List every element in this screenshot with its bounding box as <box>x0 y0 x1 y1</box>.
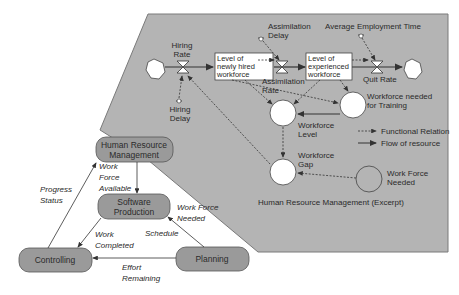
svg-text:Average Employment Time: Average Employment Time <box>325 22 421 31</box>
svg-text:Management: Management <box>109 150 159 160</box>
svg-text:Schedule: Schedule <box>145 229 179 238</box>
svg-text:Workforce needed: Workforce needed <box>367 92 432 101</box>
svg-text:Needed: Needed <box>387 178 415 187</box>
svg-text:workforce: workforce <box>216 70 250 79</box>
svg-text:Quit Rate: Quit Rate <box>363 75 397 84</box>
svg-text:Needed: Needed <box>177 214 206 223</box>
svg-text:Gap: Gap <box>298 160 314 169</box>
svg-text:Work Force: Work Force <box>387 169 429 178</box>
svg-text:Production: Production <box>114 207 155 217</box>
svg-text:Rate: Rate <box>174 50 191 59</box>
svg-text:Planning: Planning <box>195 254 228 264</box>
svg-text:Functional Relation: Functional Relation <box>381 127 449 136</box>
svg-text:for Training: for Training <box>367 101 407 110</box>
workforce-gap-circle <box>270 159 296 185</box>
svg-text:Delay: Delay <box>170 114 190 123</box>
svg-text:Effort: Effort <box>122 263 142 272</box>
svg-text:Remaining: Remaining <box>122 274 161 283</box>
work-force-needed-circle <box>356 166 382 192</box>
svg-text:Work Force: Work Force <box>177 203 219 212</box>
svg-text:Work: Work <box>99 162 119 171</box>
svg-text:Level: Level <box>298 130 317 139</box>
svg-text:Assimilation: Assimilation <box>262 77 305 86</box>
hr-management-diagram: Level of newly hired workforce Level of … <box>0 0 459 295</box>
svg-text:Controlling: Controlling <box>35 255 76 265</box>
svg-text:Assimilation: Assimilation <box>268 22 311 31</box>
svg-text:Flow of resource: Flow of resource <box>381 139 441 148</box>
svg-text:Status: Status <box>40 196 63 205</box>
svg-text:Force: Force <box>99 173 120 182</box>
svg-text:Hiring: Hiring <box>170 105 191 114</box>
svg-text:workforce: workforce <box>307 70 341 79</box>
panel-title: Human Resource Management (Excerpt) <box>258 198 404 207</box>
svg-text:Delay: Delay <box>268 31 288 40</box>
svg-text:Workforce: Workforce <box>298 121 335 130</box>
svg-text:Progress: Progress <box>40 185 72 194</box>
svg-text:Workforce: Workforce <box>298 151 335 160</box>
svg-text:Hiring: Hiring <box>172 41 193 50</box>
svg-text:Human Resource: Human Resource <box>101 140 167 150</box>
workforce-level-circle <box>270 100 296 126</box>
svg-text:Work: Work <box>95 230 115 239</box>
svg-text:Rate: Rate <box>262 86 279 95</box>
svg-text:Completed: Completed <box>95 241 134 250</box>
workforce-training-circle <box>340 92 366 118</box>
svg-text:Available: Available <box>98 184 132 193</box>
svg-text:Software: Software <box>117 197 151 207</box>
